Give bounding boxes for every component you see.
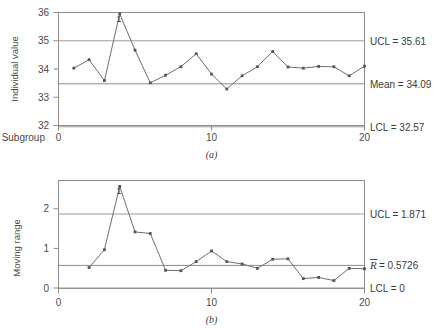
data-point bbox=[256, 267, 259, 270]
ucl-label: UCL = 1.871 bbox=[370, 209, 426, 220]
x-tick-label-20: 20 bbox=[359, 132, 371, 143]
data-point bbox=[302, 67, 305, 70]
rbar-value: = 0.5726 bbox=[379, 260, 419, 271]
data-point bbox=[363, 65, 366, 68]
data-point bbox=[72, 67, 75, 70]
data-point bbox=[225, 88, 228, 91]
data-series-markers bbox=[88, 185, 366, 282]
center-line-label: Mean = 34.09 bbox=[370, 79, 432, 90]
moving-range-chart-svg: 0 1 2 Moving range 0 10 20 1 UCL = 1.871… bbox=[0, 164, 444, 328]
data-point bbox=[195, 260, 198, 263]
data-point bbox=[134, 49, 137, 52]
data-point bbox=[271, 50, 274, 53]
data-point bbox=[88, 266, 91, 269]
x-tick-label-10: 10 bbox=[206, 132, 218, 143]
y-tick-label-2: 2 bbox=[43, 203, 49, 214]
ucl-label: UCL = 35.61 bbox=[370, 36, 426, 47]
data-point bbox=[348, 74, 351, 77]
y-axis-title: Moving range bbox=[11, 219, 22, 277]
data-point bbox=[134, 231, 137, 234]
violation-label-1: 1 bbox=[116, 13, 121, 24]
y-tick-label-1: 1 bbox=[43, 243, 49, 254]
data-point bbox=[256, 65, 259, 68]
violation-label-1: 1 bbox=[116, 185, 121, 196]
data-series-line bbox=[74, 14, 365, 89]
x-tick-label-10: 10 bbox=[206, 297, 218, 308]
y-tick-label-35: 35 bbox=[38, 35, 50, 46]
data-point bbox=[164, 269, 167, 272]
data-point bbox=[149, 81, 152, 84]
y-tick-label-32: 32 bbox=[38, 120, 50, 131]
plot-frame bbox=[59, 181, 365, 289]
data-point bbox=[103, 248, 106, 251]
data-point bbox=[287, 66, 290, 69]
center-line-label: R = 0.5726 bbox=[369, 259, 419, 271]
plot-frame bbox=[59, 13, 365, 126]
lcl-label: LCL = 0 bbox=[370, 283, 405, 294]
data-point bbox=[88, 58, 91, 61]
data-point bbox=[103, 79, 106, 82]
data-point bbox=[363, 267, 366, 270]
data-point bbox=[348, 267, 351, 270]
data-series-line bbox=[89, 186, 364, 280]
data-point bbox=[149, 232, 152, 235]
y-tick-label-36: 36 bbox=[38, 7, 50, 18]
data-point bbox=[241, 263, 244, 266]
x-axis-tick-labels: 0 10 20 bbox=[56, 297, 371, 308]
figure-caption: (b) bbox=[206, 314, 218, 326]
figure-caption: (a) bbox=[206, 149, 218, 161]
data-point bbox=[333, 65, 336, 68]
data-point bbox=[317, 65, 320, 68]
y-tick-label-33: 33 bbox=[38, 92, 50, 103]
x-tick-label-0: 0 bbox=[56, 297, 62, 308]
data-point bbox=[195, 52, 198, 55]
y-axis-tick-labels: 0 1 2 bbox=[43, 203, 49, 293]
x-axis-tick-labels: 0 10 20 bbox=[56, 132, 371, 143]
data-point bbox=[333, 279, 336, 282]
x-axis-ticks bbox=[59, 126, 365, 131]
data-point bbox=[210, 250, 213, 253]
x-tick-label-20: 20 bbox=[359, 297, 371, 308]
data-point bbox=[271, 258, 274, 261]
lcl-label: LCL = 32.57 bbox=[370, 122, 425, 133]
data-point bbox=[241, 74, 244, 77]
data-point bbox=[180, 269, 183, 272]
y-axis-tick-labels: 32 33 34 35 36 bbox=[38, 7, 50, 131]
individuals-chart-figure: 32 33 34 35 36 Individual value 0 10 20 … bbox=[0, 0, 444, 164]
x-axis-title: Subgroup bbox=[2, 132, 46, 143]
rbar-symbol: R bbox=[369, 259, 377, 271]
y-tick-label-0: 0 bbox=[43, 283, 49, 294]
data-point bbox=[225, 260, 228, 263]
data-point bbox=[287, 257, 290, 260]
y-tick-label-34: 34 bbox=[38, 64, 50, 75]
individuals-chart-svg: 32 33 34 35 36 Individual value 0 10 20 … bbox=[0, 0, 444, 164]
data-point bbox=[164, 74, 167, 77]
data-point bbox=[210, 73, 213, 76]
data-point bbox=[180, 65, 183, 68]
y-axis-ticks bbox=[54, 13, 59, 126]
moving-range-chart-figure: 0 1 2 Moving range 0 10 20 1 UCL = 1.871… bbox=[0, 164, 444, 328]
data-point bbox=[302, 277, 305, 280]
data-point bbox=[317, 276, 320, 279]
x-axis-ticks bbox=[59, 289, 365, 294]
data-series-markers bbox=[72, 13, 366, 91]
y-axis-title: Individual value bbox=[9, 36, 20, 102]
y-axis-ticks bbox=[54, 209, 59, 288]
x-tick-label-0: 0 bbox=[56, 132, 62, 143]
